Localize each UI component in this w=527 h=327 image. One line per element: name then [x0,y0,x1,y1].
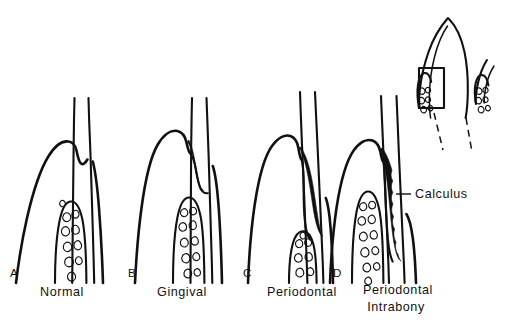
panel-d-caption-line2: Intrabony [367,300,425,314]
panel-a-letter: A [10,267,18,279]
panel-c-caption: Periodontal [267,285,337,299]
panel-d-letter: D [333,267,342,279]
panel-c-letter: C [243,267,252,279]
figure-canvas: A Normal [0,0,527,327]
calculus-label: Calculus [415,187,468,201]
periodontal-figure: A Normal [0,0,527,327]
panel-b-letter: B [128,267,136,279]
panel-d-caption-line1: Periodontal [363,283,433,297]
panel-b-caption: Gingival [157,285,207,299]
panel-a-caption: Normal [40,285,84,299]
